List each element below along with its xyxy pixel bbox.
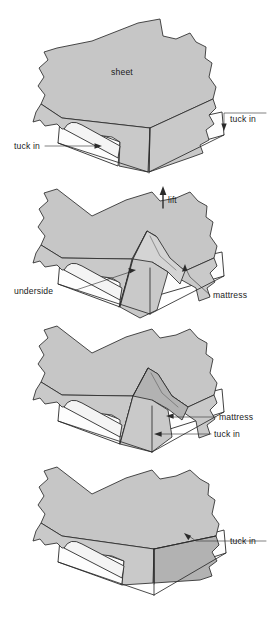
figure-canvas: sheet tuck in tuck in — [0, 0, 279, 624]
label-underside-p2: underside — [14, 286, 53, 296]
label-lift-p2: lift — [168, 196, 177, 205]
panel-sheet-draped: sheet tuck in tuck in — [14, 19, 266, 173]
panel-finished-corner: tuck in — [33, 467, 266, 595]
hospital-corner-figure: sheet tuck in tuck in — [0, 0, 279, 624]
label-tuck-in-right-p1: tuck in — [230, 114, 256, 124]
panel-lift-fold: lift underside mattress — [14, 186, 247, 318]
label-mattress-p3: mattress — [219, 412, 253, 422]
label-tuck-in-p4: tuck in — [230, 536, 256, 546]
label-mattress-p2: mattress — [213, 290, 247, 300]
panel-fold-down: mattress tuck in — [33, 326, 253, 452]
lift-arrow-head-p2 — [160, 186, 167, 195]
label-sheet-p1: sheet — [111, 67, 133, 77]
label-tuck-in-p3: tuck in — [214, 429, 240, 439]
label-tuck-in-left-p1: tuck in — [14, 141, 40, 151]
